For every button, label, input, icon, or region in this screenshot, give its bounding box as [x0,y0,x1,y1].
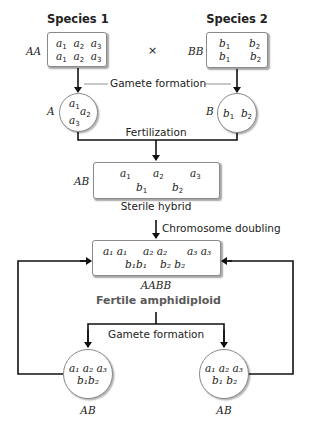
gamete-a-label: A [47,105,55,117]
species2-row2: b1 [219,51,230,62]
amphidiploid-genotype: AABB [132,279,180,291]
amphidiploid-box: a₁ a₁ a₂ a₂ a₃ a₃ b₁b₁ b₂ b₂ [92,240,221,276]
species2-title: Species 2 [206,12,268,26]
species2-box: b1 b2 b1 b2 [206,32,268,68]
hybrid-genotype: AB [74,175,89,187]
amphidiploid-caption: Fertile amphidiploid [96,294,216,307]
gamete-b-label: B [206,105,214,117]
species1-box: a1 a2 a3 a1 a2 a3 [47,32,107,67]
offspring-gamete-left-label: AB [76,404,100,416]
hybrid-box: a1 a2 a3 b1 b2 [93,162,220,199]
species1-genotype: AA [26,45,41,57]
step-chromosome-doubling: Chromosome doubling [162,222,281,234]
hybrid-caption: Sterile hybrid [108,200,204,212]
species2-row1: b1 [219,38,230,49]
species1-row2: a1 a2 a3 [56,51,102,62]
offspring-gamete-right-label: AB [212,404,236,416]
species2-genotype: BB [188,45,203,57]
step-fertilization: Fertilization [124,126,188,138]
step-gamete-formation-2: Gamete formation [108,328,204,340]
gamete-a-circle: a1 a2 a3 [59,93,98,132]
step-gamete-formation-1: Gamete formation [110,77,204,89]
species1-title: Species 1 [47,12,107,26]
cross-symbol: × [148,44,157,57]
species1-row1: a1 a2 a3 [56,38,102,49]
offspring-gamete-left-circle: a₁ a₂ a₃ b₁b₂ [63,349,113,399]
offspring-gamete-right-circle: a₁ a₂ a₃ b₁ b₂ [199,349,249,399]
gamete-b-circle: b1 b2 [217,93,257,133]
